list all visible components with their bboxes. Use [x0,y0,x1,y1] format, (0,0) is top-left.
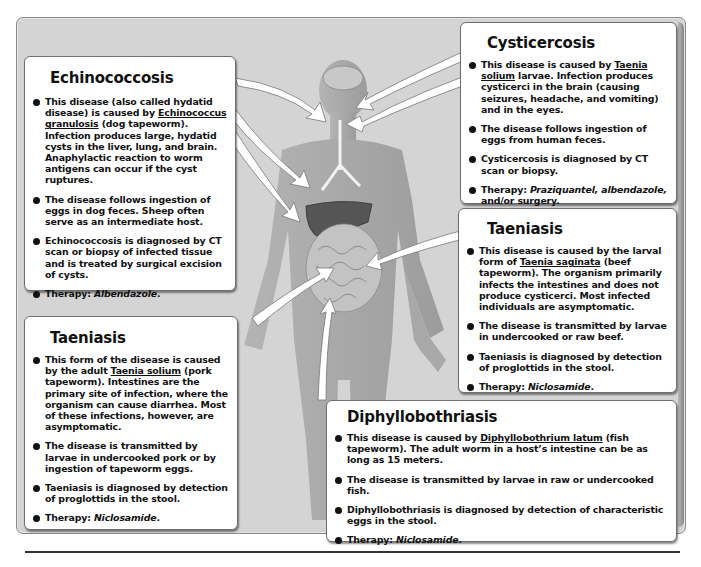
callout-title: Taeniasis [467,220,668,238]
bullet-list: This form of the disease is caused by th… [33,354,229,524]
bullet-cause: This disease (also called hydatid diseas… [33,96,227,186]
bullet-therapy: Therapy: Niclosamide. [33,512,229,523]
bullet-transmission: The disease follows ingestion of eggs fr… [469,123,668,145]
bullet-transmission: The disease is transmitted by larvae in … [33,440,229,474]
callout-diphyllobothriasis: Diphyllobothriasis This disease is cause… [326,400,677,542]
drug-name: Albendazole [94,288,157,299]
bullet-list: This disease is caused by Taenia solium … [469,59,668,206]
callout-cysticercosis: Cysticercosis This disease is caused by … [460,22,677,204]
bullet-cause: This disease is caused by Taenia solium … [469,59,668,115]
bullet-list: This disease (also called hydatid diseas… [33,96,227,299]
callout-title: Cysticercosis [469,34,668,52]
bottom-rule [25,551,680,553]
drug-name: Praziquantel, albendazole, [530,184,667,195]
bullet-diagnosis: Taeniasis is diagnosed by detection of p… [33,482,229,504]
callout-title: Taeniasis [33,329,229,347]
bullet-cause: This disease is caused by Diphyllobothri… [335,432,668,466]
bullet-transmission: The disease is transmitted by larvae in … [335,474,668,496]
bullet-therapy: Therapy: Niclosamide. [467,381,668,392]
bullet-diagnosis: Taeniasis is diagnosed by detection of p… [467,351,668,373]
organism-name: Taenia saginata [520,256,601,267]
brain [323,66,363,90]
callout-title: Echinococcosis [33,69,227,87]
organism-name: Taenia solium [111,365,181,376]
bullet-therapy: Therapy: Niclosamide. [335,534,668,545]
drug-name: Niclosamide [528,381,591,392]
callout-title: Diphyllobothriasis [335,408,668,426]
callout-taeniasis-beef: Taeniasis This disease is caused by the … [458,208,677,393]
bullet-transmission: The disease is transmitted by larvae in … [467,320,668,342]
drug-name: Niclosamide [94,512,157,523]
bullet-list: This disease is caused by Diphyllobothri… [335,432,668,546]
bullet-therapy: Therapy: Praziquantel, albendazole, and/… [469,184,668,206]
bullet-list: This disease is caused by the larval for… [467,245,668,392]
bullet-diagnosis: Diphyllobothriasis is diagnosed by detec… [335,504,668,526]
bullet-cause: This disease is caused by the larval for… [467,245,668,312]
callout-echinococcosis: Echinococcosis This disease (also called… [24,56,236,291]
bullet-transmission: The disease follows ingestion of eggs in… [33,194,227,228]
bullet-therapy: Therapy: Albendazole. [33,288,227,299]
drug-name: Niclosamide [396,534,459,545]
bullet-diagnosis: Echinococcosis is diagnosed by CT scan o… [33,235,227,280]
bullet-diagnosis: Cysticercosis is diagnosed by CT scan or… [469,153,668,175]
organism-name: Diphyllobothrium latum [480,432,602,443]
callout-taeniasis-pork: Taeniasis This form of the disease is ca… [24,316,238,530]
bullet-cause: This form of the disease is caused by th… [33,354,229,432]
